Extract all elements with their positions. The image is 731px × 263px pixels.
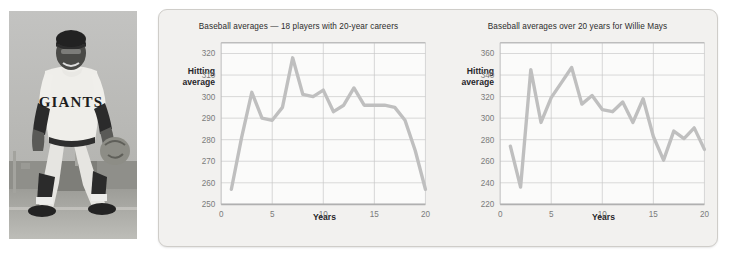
right-x-axis-label: Years <box>498 212 709 222</box>
y-tick-label: 280 <box>481 136 495 145</box>
charts-row: Baseball averages — 18 players with 20-y… <box>159 10 717 246</box>
y-tick-label: 280 <box>202 136 216 145</box>
y-tick-label: 360 <box>481 49 495 58</box>
y-tick-label: 220 <box>481 200 495 209</box>
willie-mays-photo: GIANTS <box>9 11 137 239</box>
left-chart-cell: Baseball averages — 18 players with 20-y… <box>159 10 438 246</box>
figure-panel: Baseball averages — 18 players with 20-y… <box>158 9 718 247</box>
y-tick-label: 320 <box>481 93 495 102</box>
y-tick-label: 300 <box>202 93 216 102</box>
jersey-text: GIANTS <box>39 94 104 110</box>
y-tick-label: 300 <box>481 114 495 123</box>
y-tick-label: 250 <box>202 200 216 209</box>
y-tick-label: 240 <box>481 179 495 188</box>
y-tick-label: 270 <box>202 157 216 166</box>
right-chart-cell: Baseball averages over 20 years for Will… <box>438 10 717 246</box>
photo-illustration: GIANTS <box>9 11 137 239</box>
y-tick-label: 310 <box>202 71 216 80</box>
left-chart-plot: 25026027028029030031032005101520 <box>159 10 438 246</box>
right-chart-plot: 22024026028030032034036005101520 <box>438 10 717 246</box>
y-tick-label: 320 <box>202 49 216 58</box>
y-tick-label: 260 <box>481 157 495 166</box>
y-tick-label: 340 <box>481 71 495 80</box>
y-tick-label: 290 <box>202 114 216 123</box>
y-tick-label: 260 <box>202 179 216 188</box>
left-x-axis-label: Years <box>219 212 430 222</box>
